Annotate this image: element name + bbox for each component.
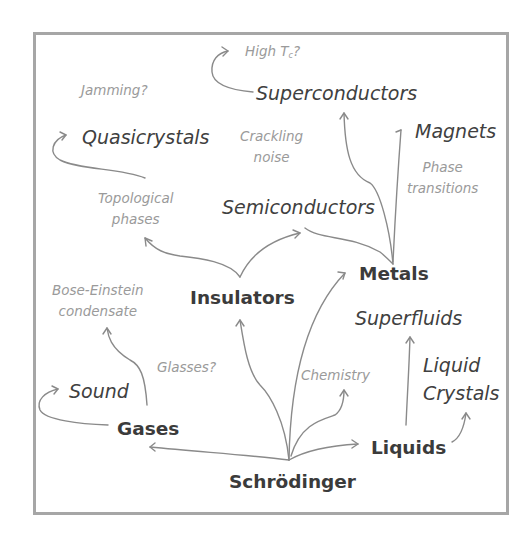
arrow-schrodinger-gases: [150, 443, 289, 460]
node-metals: Metals: [359, 265, 429, 284]
node-liquids: Liquids: [371, 439, 446, 458]
arrow-metals-superconductors: [340, 113, 393, 264]
arrow-liquids-liquidcrystals: [452, 413, 470, 442]
annotation-high-tc: High Tc?: [245, 45, 300, 60]
node-liquid-crystals: Liquid Crystals: [423, 351, 500, 407]
arrow-schrodinger-liquids: [289, 440, 358, 460]
node-quasicrystals: Quasicrystals: [82, 128, 210, 147]
arrow-insulators-semiconductors: [240, 230, 300, 277]
node-superfluids: Superfluids: [355, 309, 462, 328]
node-semiconductors: Semiconductors: [222, 198, 375, 217]
arrow-schrodinger-metals: [289, 272, 345, 460]
annotation-chemistry: Chemistry: [301, 369, 370, 383]
node-schrodinger: Schrödinger: [229, 473, 356, 492]
node-gases: Gases: [117, 420, 179, 439]
arrow-insulators-topological: [145, 238, 240, 277]
arrow-schrodinger-insulators: [236, 320, 289, 460]
arrows-layer: [0, 0, 532, 533]
annotation-bose-einstein: Bose-Einstein condensate: [52, 280, 144, 322]
annotation-glasses: Glasses?: [157, 361, 216, 375]
arrow-metals-magnets: [393, 130, 401, 262]
annotation-crackling-noise: Crackling noise: [240, 126, 303, 168]
annotation-topological-phases: Topological phases: [98, 188, 173, 230]
annotation-phase-transitions: Phase transitions: [407, 157, 478, 199]
arrow-semiconductors-metals-link: [305, 228, 393, 264]
node-insulators: Insulators: [190, 289, 295, 308]
node-sound: Sound: [69, 382, 129, 401]
arrow-liquids-superfluids: [406, 337, 414, 425]
node-superconductors: Superconductors: [256, 84, 417, 103]
node-magnets: Magnets: [415, 122, 496, 141]
annotation-jamming: Jamming?: [81, 84, 148, 98]
